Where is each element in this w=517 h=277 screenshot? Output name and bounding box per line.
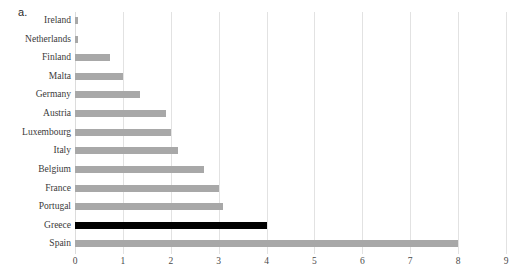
category-label-netherlands: Netherlands <box>0 34 71 44</box>
category-label-italy: Italy <box>0 145 71 155</box>
bar-row <box>75 68 506 87</box>
bar-row <box>75 12 506 31</box>
category-label-luxembourg: Luxembourg <box>0 127 71 137</box>
category-label-ireland: Ireland <box>0 15 71 25</box>
bar-row <box>75 180 506 199</box>
bar-row <box>75 235 506 254</box>
bar-row <box>75 31 506 50</box>
bar-row <box>75 217 506 236</box>
bar-finland <box>75 54 110 61</box>
bar-row <box>75 161 506 180</box>
x-tick-label: 2 <box>160 256 182 266</box>
bar-france <box>75 185 219 192</box>
category-label-germany: Germany <box>0 89 71 99</box>
category-label-spain: Spain <box>0 238 71 248</box>
category-axis-labels: IrelandNetherlandsFinlandMaltaGermanyAus… <box>0 12 71 254</box>
bar-austria <box>75 110 166 117</box>
x-tick-label: 3 <box>208 256 230 266</box>
category-label-malta: Malta <box>0 71 71 81</box>
bar-italy <box>75 147 178 154</box>
bar-row <box>75 142 506 161</box>
bar-series <box>75 12 506 254</box>
x-tick-label: 4 <box>256 256 278 266</box>
category-label-finland: Finland <box>0 52 71 62</box>
chart-figure: a. IrelandNetherlandsFinlandMaltaGermany… <box>0 0 517 277</box>
x-tick-label: 5 <box>303 256 325 266</box>
category-label-belgium: Belgium <box>0 164 71 174</box>
bar-row <box>75 49 506 68</box>
bar-germany <box>75 91 140 98</box>
x-tick-label: 6 <box>351 256 373 266</box>
bar-netherlands <box>75 36 78 43</box>
category-label-france: France <box>0 183 71 193</box>
bar-spain <box>75 240 458 247</box>
bar-row <box>75 105 506 124</box>
bar-greece <box>75 222 267 229</box>
category-label-greece: Greece <box>0 220 71 230</box>
bar-malta <box>75 73 123 80</box>
bar-row <box>75 198 506 217</box>
gridline <box>506 12 507 254</box>
bar-luxembourg <box>75 129 171 136</box>
x-tick-label: 7 <box>399 256 421 266</box>
x-tick-label: 1 <box>112 256 134 266</box>
plot-area <box>75 12 506 254</box>
x-tick-label: 0 <box>64 256 86 266</box>
bar-row <box>75 124 506 143</box>
bar-ireland <box>75 17 78 24</box>
bar-portugal <box>75 203 223 210</box>
category-label-austria: Austria <box>0 108 71 118</box>
x-tick-label: 9 <box>495 256 517 266</box>
x-tick-label: 8 <box>447 256 469 266</box>
bar-row <box>75 86 506 105</box>
x-axis-tick-labels: 0123456789 <box>75 256 506 272</box>
category-label-portugal: Portugal <box>0 201 71 211</box>
bar-belgium <box>75 166 204 173</box>
